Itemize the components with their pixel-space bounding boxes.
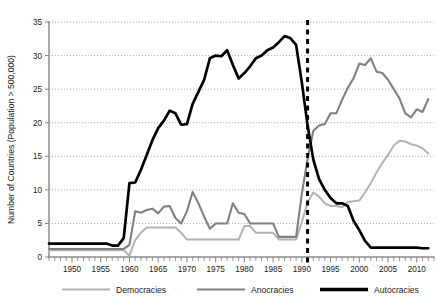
legend-label-autocracies: Autocracies xyxy=(374,285,419,295)
x-tick-label: 1970 xyxy=(178,265,197,274)
x-tick-label: 2005 xyxy=(379,265,398,274)
y-tick-label: 5 xyxy=(37,219,42,228)
x-tick-label: 1960 xyxy=(120,265,139,274)
x-tick-label: 2010 xyxy=(408,265,427,274)
x-tick-label: 1995 xyxy=(321,265,340,274)
legend-label-anocracies: Anocracies xyxy=(251,285,294,295)
x-tick-label: 2000 xyxy=(350,265,369,274)
y-tick-label: 35 xyxy=(33,18,43,27)
chart-container: 05101520253035 1950195519601965197019751… xyxy=(0,0,441,303)
y-tick-label: 15 xyxy=(33,152,43,161)
y-tick-label: 25 xyxy=(33,85,43,94)
x-tick-label: 1985 xyxy=(264,265,283,274)
y-axis-label-text: Number of Countries (Population > 500,00… xyxy=(6,55,16,224)
x-tick-label: 1965 xyxy=(149,265,168,274)
legend-label-democracies: Democracies xyxy=(116,285,166,295)
x-tick-label: 1975 xyxy=(207,265,226,274)
x-tick-label: 1980 xyxy=(235,265,254,274)
y-axis-label: Number of Countries (Population > 500,00… xyxy=(6,55,16,224)
x-tick-label: 1955 xyxy=(92,265,111,274)
line-chart: 05101520253035 1950195519601965197019751… xyxy=(0,0,441,303)
x-tick-label: 1990 xyxy=(293,265,312,274)
y-tick-label: 20 xyxy=(33,119,43,128)
y-tick-label: 30 xyxy=(33,52,43,61)
x-tick-label: 1950 xyxy=(63,265,82,274)
y-tick-label: 0 xyxy=(37,253,42,262)
y-tick-label: 10 xyxy=(33,186,43,195)
